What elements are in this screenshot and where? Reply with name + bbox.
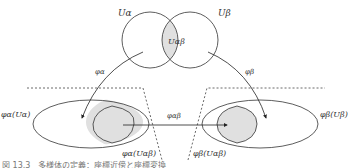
label-u-alpha-beta: Uαβ xyxy=(168,37,185,46)
label-phi-beta-u-beta: φβ(Uβ) xyxy=(320,110,348,119)
label-u-alpha: Uα xyxy=(118,8,132,18)
label-phi-beta-u-alpha-beta: φβ(Uαβ) xyxy=(193,149,226,158)
figure-caption: 図 13.3 多様体の定義：座標近傍と座標変換 xyxy=(2,161,166,168)
label-phi-alpha-beta: φαβ xyxy=(167,112,181,120)
label-u-beta: Uβ xyxy=(218,8,231,18)
label-phi-alpha: φα xyxy=(95,68,105,76)
lens-right xyxy=(217,106,257,143)
label-phi-beta: φβ xyxy=(245,68,254,76)
label-phi-alpha-u-alpha-beta: φα(Uαβ) xyxy=(122,149,156,158)
label-phi-alpha-u-alpha: φα(Uα) xyxy=(1,110,30,119)
manifold-diagram: Uα Uβ Uαβ φα φβ φαβ φα(Uα) φβ(Uβ) φα(Uαβ… xyxy=(0,0,349,168)
